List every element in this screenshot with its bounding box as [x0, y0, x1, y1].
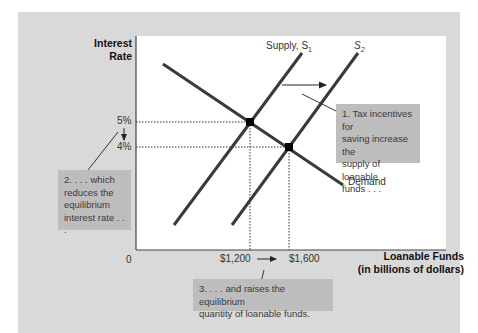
supply-s1-sub: 1 — [308, 46, 312, 53]
y-tick-4: 4% — [117, 141, 131, 152]
annotation-1-line: supply of loanable — [342, 158, 414, 183]
x-title-line2: (in billions of dollars) — [330, 263, 464, 276]
y-title-line2: Rate — [80, 50, 132, 63]
supply-s2-label: S2 — [354, 40, 365, 53]
annotation-3-line: quantity of loanable funds. — [199, 308, 327, 321]
supply-s2-sub: 2 — [361, 46, 365, 53]
annotation-2: 2. . . . which reduces the equilibrium i… — [58, 170, 131, 230]
origin-label: 0 — [126, 254, 132, 265]
x-title-line1: Loanable Funds — [330, 250, 464, 263]
annotation-1: 1. Tax incentives for saving increase th… — [336, 104, 420, 163]
supply-s1-label: Supply, S1 — [266, 40, 312, 53]
annotation-1-line: saving increase the — [342, 133, 414, 158]
y-tick-5: 5% — [117, 115, 131, 126]
supply-s2-text: S — [354, 40, 361, 51]
annotation-2-line: equilibrium — [64, 199, 125, 212]
supply-s1-text: Supply, S — [266, 40, 308, 51]
annotation-2-line: 2. . . . which — [64, 174, 125, 187]
equilibrium-point-initial — [246, 118, 254, 126]
annotation-1-line: 1. Tax incentives for — [342, 108, 414, 133]
annotation-2-line: interest rate . . . — [64, 212, 125, 237]
x-axis-title: Loanable Funds (in billions of dollars) — [330, 250, 464, 276]
annotation-1-line: funds . . . — [342, 183, 414, 196]
y-axis-title: Interest Rate — [80, 37, 132, 63]
x-tick-1600: $1,600 — [289, 253, 320, 264]
x-tick-1200: $1,200 — [220, 253, 251, 264]
supply-s1-curve — [174, 53, 302, 225]
equilibrium-guides — [136, 122, 289, 250]
leader-line-2 — [88, 132, 118, 170]
leader-line-1 — [302, 94, 338, 112]
equilibrium-point-new — [285, 143, 293, 151]
y-title-line1: Interest — [80, 37, 132, 50]
annotation-2-line: reduces the — [64, 187, 125, 200]
annotation-3-line: 3. . . . and raises the equilibrium — [199, 283, 327, 308]
annotation-3: 3. . . . and raises the equilibrium quan… — [193, 279, 333, 311]
